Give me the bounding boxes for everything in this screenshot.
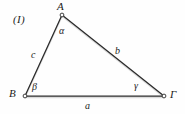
triangle-diagram-svg (0, 0, 185, 114)
figure-number-label: (I) (13, 14, 25, 25)
vertex-label-b: B (9, 88, 16, 99)
side-label-b: b (115, 46, 120, 56)
angle-label-beta: β (32, 82, 37, 92)
triangle-side-shadows (25, 16, 164, 97)
side-b-line (62, 15, 164, 96)
triangle-figure: (I) A B Γ α β γ a b c (0, 0, 185, 114)
vertex-B-marker (23, 94, 27, 98)
angle-label-alpha: α (59, 26, 64, 36)
vertex-A-marker (60, 13, 64, 17)
angle-label-gamma: γ (134, 81, 138, 91)
vertex-label-gamma: Γ (170, 89, 176, 100)
side-label-c: c (31, 50, 35, 60)
side-label-a: a (85, 101, 90, 111)
vertex-label-a: A (57, 1, 64, 12)
vertex-gamma-marker (162, 94, 166, 98)
